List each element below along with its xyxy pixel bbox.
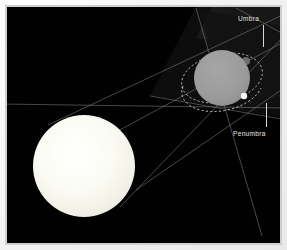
eclipse-diagram-figure: Umbra Penumbra [0,0,287,250]
moon-body [241,93,247,99]
umbra-label: Umbra [238,15,259,22]
sun-body [33,115,135,217]
diagram-canvas: Umbra Penumbra [7,7,280,243]
diagram-scene: Umbra Penumbra [7,7,280,243]
penumbra-label: Penumbra [233,130,266,137]
penumbra-leader-line [266,103,267,127]
umbra-leader-line [263,25,264,47]
eclipse-geometry-illustration [7,7,280,243]
